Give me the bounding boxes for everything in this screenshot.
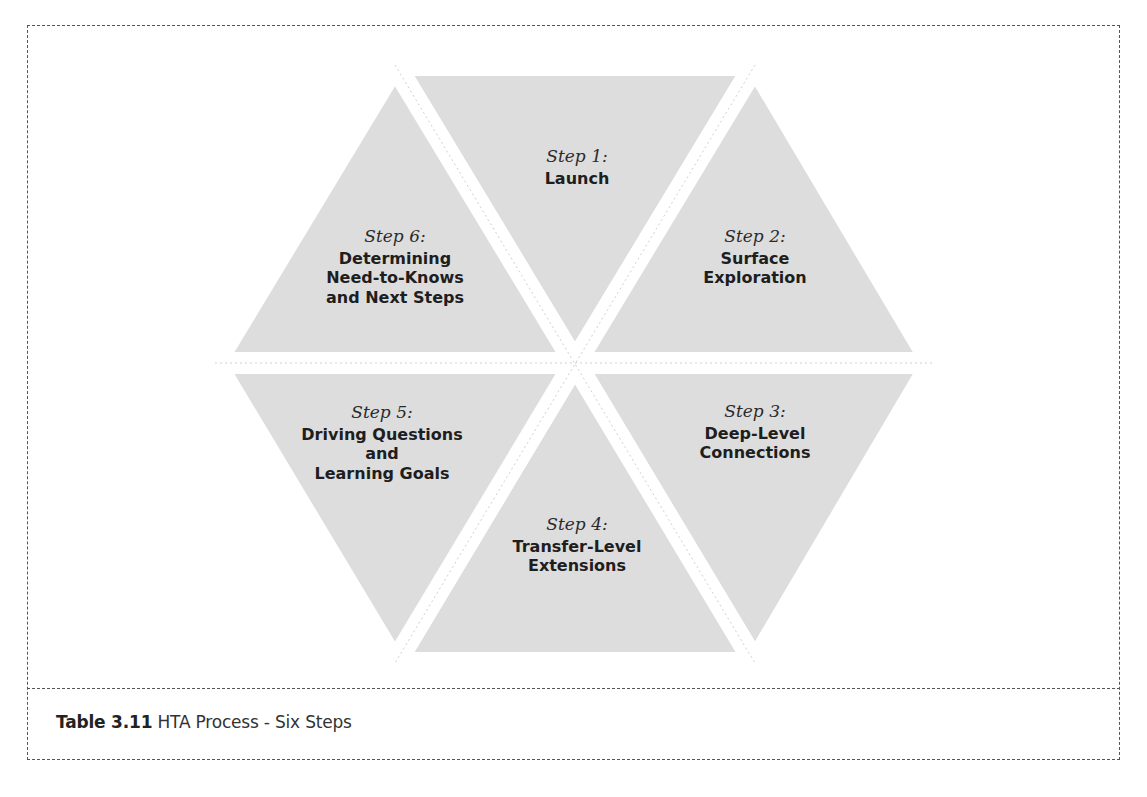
step-title: Launch <box>545 169 610 189</box>
step-number: Step 6: <box>326 226 464 247</box>
step-number: Step 4: <box>513 514 642 535</box>
step-6-label: Step 6: Determining Need-to-Knows and Ne… <box>326 226 464 307</box>
step-title: Transfer-Level Extensions <box>513 537 642 576</box>
hexagon-diagram <box>0 0 1147 797</box>
step-3-label: Step 3: Deep-Level Connections <box>700 401 811 463</box>
step-2-label: Step 2: Surface Exploration <box>703 226 806 288</box>
figure-caption: Table 3.11 HTA Process - Six Steps <box>56 712 352 732</box>
caption-text: HTA Process - Six Steps <box>152 712 351 732</box>
caption-label: Table 3.11 <box>56 712 152 732</box>
step-number: Step 1: <box>545 146 610 167</box>
step-title: Driving Questions and Learning Goals <box>301 425 462 484</box>
step-number: Step 2: <box>703 226 806 247</box>
step-title: Surface Exploration <box>703 249 806 288</box>
step-number: Step 5: <box>301 402 462 423</box>
step-title: Deep-Level Connections <box>700 424 811 463</box>
step-title: Determining Need-to-Knows and Next Steps <box>326 249 464 308</box>
caption-divider <box>27 688 1120 689</box>
step-number: Step 3: <box>700 401 811 422</box>
step-4-label: Step 4: Transfer-Level Extensions <box>513 514 642 576</box>
step-5-label: Step 5: Driving Questions and Learning G… <box>301 402 462 483</box>
step-1-label: Step 1: Launch <box>545 146 610 188</box>
